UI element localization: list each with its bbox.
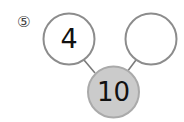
left-value: 4: [43, 13, 95, 65]
number-bond-diagram: ⑤ 4 10: [0, 0, 184, 122]
problem-number: ⑤: [17, 13, 30, 31]
right-value[interactable]: [125, 13, 177, 65]
bottom-value: 10: [88, 66, 140, 118]
